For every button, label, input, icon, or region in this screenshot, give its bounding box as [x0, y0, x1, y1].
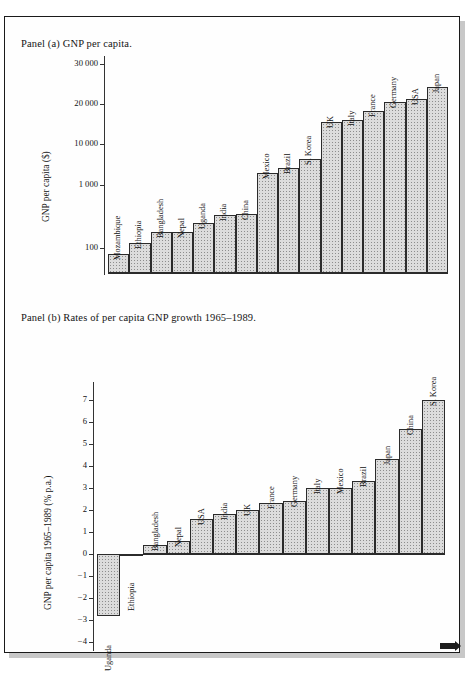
panel-a-baseline: [108, 273, 448, 274]
panel-a-y-tick-label: 20 000: [48, 98, 98, 108]
panel-a-y-tick-label: 10 000: [48, 138, 98, 148]
bar: [172, 232, 193, 273]
bar: [321, 122, 342, 273]
panel-b-y-tick-label: −1: [53, 570, 87, 580]
bar: [363, 111, 384, 273]
panel-b-y-tick: [89, 642, 93, 643]
shadow-arrow-icon: [440, 643, 456, 649]
bar: [259, 503, 282, 554]
panel-b-zero-line: [97, 554, 445, 555]
panel-a-y-tick-label: 30 000: [48, 58, 98, 68]
panel-b-y-tick-label: 0: [53, 548, 87, 558]
bar-label: Japan: [383, 446, 392, 465]
bar-label: Japan: [432, 74, 441, 93]
panel-a-y-tick: [100, 185, 104, 186]
panel-b-y-axis-title: GNP per capita 1965–1989 (% p.a.): [43, 476, 53, 610]
panel-a-y-tick: [100, 104, 104, 105]
bar-label: Uganda: [104, 645, 113, 671]
bar-label: Bangladesh: [156, 199, 165, 238]
panel-a-chart: 30 00020 00010 0001 000100GNP per capita…: [5, 17, 461, 292]
bar: [283, 501, 306, 554]
bar-label: UK: [243, 504, 252, 516]
bar: [151, 232, 172, 273]
panel-b-y-tick-label: 5: [53, 438, 87, 448]
panel-b-y-tick: [89, 532, 93, 533]
bar-label: France: [267, 487, 276, 510]
bar: [384, 102, 405, 273]
bar-label: Uganda: [198, 203, 207, 229]
bar: [306, 488, 329, 554]
bar-label: Mexico: [262, 153, 271, 179]
bar: [97, 554, 120, 616]
panel-b-y-tick: [89, 444, 93, 445]
panel-a-y-axis-title: GNP per capita ($): [41, 151, 51, 222]
panel-a-y-tick: [100, 144, 104, 145]
panel-b-y-tick-label: −3: [53, 614, 87, 624]
bar-label: Mozambique: [113, 216, 122, 260]
bar: [406, 99, 427, 273]
bar: [375, 459, 398, 554]
figure-frame: Panel (a) GNP per capita. 30 00020 00010…: [4, 16, 460, 653]
bar: [214, 215, 235, 273]
panel-b-y-axis: [93, 382, 94, 650]
panel-b-y-tick: [89, 598, 93, 599]
bar: [257, 173, 278, 273]
bar: [299, 159, 320, 273]
bar: [399, 429, 422, 554]
bar: [213, 514, 236, 554]
panel-a-y-tick: [100, 64, 104, 65]
panel-b-y-tick-label: −4: [53, 636, 87, 646]
bar-label: Mexico: [336, 468, 345, 494]
bar: [427, 87, 448, 273]
bar: [352, 481, 375, 554]
bar-label: Nepal: [177, 218, 186, 238]
bar: [422, 400, 445, 554]
bar-label: China: [406, 415, 415, 435]
panel-b-y-tick: [89, 466, 93, 467]
bar-label: Ethiopia: [134, 221, 143, 249]
panel-b-y-tick-label: 4: [53, 460, 87, 470]
bar: [342, 120, 363, 273]
bar-label: Germany: [389, 77, 398, 108]
bar-label: UK: [326, 116, 335, 128]
panel-b-y-tick-label: 7: [53, 394, 87, 404]
bar-label: USA: [411, 88, 420, 105]
bar-label: India: [220, 503, 229, 520]
bar: [236, 214, 257, 273]
panel-b-y-tick-label: −2: [53, 592, 87, 602]
bar-label: Brazil: [283, 154, 292, 174]
bar-label: S. Korea: [304, 135, 313, 164]
panel-b-y-tick: [89, 400, 93, 401]
bar-label: India: [219, 203, 228, 220]
panel-b-y-tick: [89, 510, 93, 511]
panel-a-y-tick-label: 1 000: [48, 179, 98, 189]
bar: [278, 168, 299, 273]
panel-b-y-tick: [89, 422, 93, 423]
bar-label: S. Korea: [429, 377, 438, 406]
bar-label: France: [368, 94, 377, 117]
panel-b-y-tick: [89, 576, 93, 577]
panel-a-y-tick: [100, 248, 104, 249]
panel-b-y-tick: [89, 554, 93, 555]
bar-label: Italy: [313, 479, 322, 494]
bar-label: Ethiopia: [127, 583, 136, 611]
bar: [236, 510, 259, 554]
panel-b-y-tick: [89, 620, 93, 621]
bar-label: Brazil: [359, 467, 368, 487]
panel-b-y-tick-label: 3: [53, 482, 87, 492]
bar-label: Germany: [290, 476, 299, 507]
bar-label: Bangladesh: [151, 512, 160, 551]
bar-label: Nepal: [174, 527, 183, 547]
panel-b-y-tick-label: 1: [53, 526, 87, 536]
bar-label: China: [241, 200, 250, 220]
panel-b-y-tick-label: 6: [53, 416, 87, 426]
bar: [193, 223, 214, 273]
bar-label: Italy: [347, 111, 356, 126]
panel-b-y-tick-label: 2: [53, 504, 87, 514]
panel-a-y-axis: [104, 56, 105, 275]
panel-a-y-tick-label: 100: [48, 242, 98, 252]
bar-label: USA: [197, 508, 206, 525]
bar: [329, 488, 352, 554]
panel-b-chart: 76543210−1−2−3−4GNP per capita 1965–1989…: [5, 292, 461, 654]
panel-b-y-tick: [89, 488, 93, 489]
